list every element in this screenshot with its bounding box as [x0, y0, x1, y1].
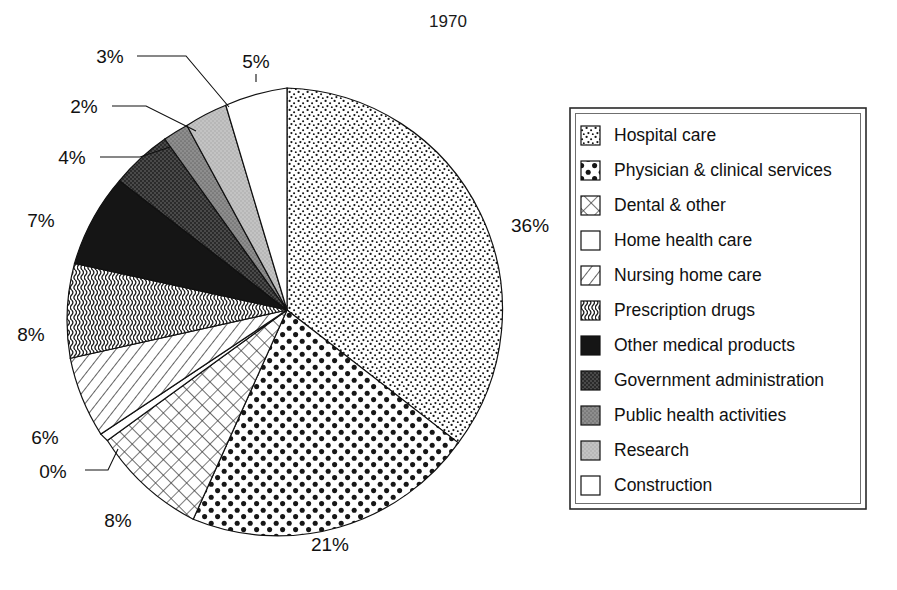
legend-item-government-administration[interactable]: Government administration	[581, 370, 824, 390]
legend-label-dental-other: Dental & other	[614, 195, 726, 215]
legend-swatch-solid-white-icon	[581, 231, 600, 250]
legend-swatch-cross-hatch-icon	[581, 196, 600, 215]
legend-label-physician-clinical-services: Physician & clinical services	[614, 160, 832, 180]
legend-swatch-fine-stipple-icon	[581, 126, 600, 145]
legend-swatch-solid-black-icon	[581, 336, 600, 355]
legend-label-other-medical-products: Other medical products	[614, 335, 795, 355]
pie-label-6-percent: 6%	[31, 427, 59, 448]
legend-label-public-health-activities: Public health activities	[614, 405, 786, 425]
legend-swatch-solid-white-construction-icon	[581, 476, 600, 495]
pie-label-3-percent: 3%	[96, 46, 124, 67]
pie-label-7-percent: 7%	[27, 210, 55, 231]
pie-label-2-percent: 2%	[70, 96, 98, 117]
pie-slices	[67, 88, 502, 536]
legend-label-nursing-home-care: Nursing home care	[614, 265, 762, 285]
leader-line-research	[137, 56, 229, 107]
legend-label-prescription-drugs: Prescription drugs	[614, 300, 755, 320]
legend-item-research[interactable]: Research	[581, 440, 689, 460]
legend-label-construction: Construction	[614, 475, 712, 495]
pie-label-4-percent: 4%	[58, 147, 86, 168]
legend-label-government-administration: Government administration	[614, 370, 824, 390]
pie-label-8-percent-rx: 8%	[17, 324, 45, 345]
legend-swatch-wavy-vertical-icon	[581, 301, 600, 320]
pie-label-8-percent-dental: 8%	[104, 510, 132, 531]
pie-chart-figure: 1970	[0, 0, 897, 590]
chart-title: 1970	[429, 12, 467, 31]
pie-label-5-percent: 5%	[242, 51, 270, 72]
legend: Hospital care Physician & clinical servi…	[570, 108, 866, 509]
pie-label-21-percent: 21%	[311, 534, 349, 555]
legend-item-physician-clinical-services[interactable]: Physician & clinical services	[581, 160, 832, 180]
legend-label-hospital-care: Hospital care	[614, 125, 716, 145]
legend-swatch-coarse-dots-icon	[581, 161, 600, 180]
legend-swatch-light-gray-icon	[581, 441, 600, 460]
pie-label-0-percent: 0%	[39, 461, 67, 482]
legend-label-home-health-care: Home health care	[614, 230, 752, 250]
leader-line-home-health-care	[85, 449, 118, 470]
chart-canvas: 1970	[0, 0, 897, 590]
legend-swatch-diagonal-hatch-icon	[581, 266, 600, 285]
legend-swatch-medium-gray-icon	[581, 406, 600, 425]
legend-label-research: Research	[614, 440, 689, 460]
legend-item-other-medical-products[interactable]: Other medical products	[581, 335, 795, 355]
legend-swatch-dark-gray-icon	[581, 371, 600, 390]
pie-label-36-percent: 36%	[511, 215, 549, 236]
